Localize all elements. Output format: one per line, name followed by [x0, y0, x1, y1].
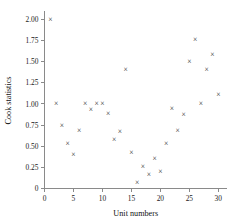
data-point-marker: ×: [83, 99, 87, 108]
x-tick-label: 5: [72, 194, 76, 203]
data-point-marker: ×: [164, 139, 168, 148]
data-point-marker: ×: [181, 110, 185, 119]
data-point-marker: ×: [210, 50, 214, 59]
data-point-marker: ×: [54, 99, 58, 108]
data-point-marker: ×: [94, 99, 98, 108]
data-point-marker: ×: [170, 104, 174, 113]
data-point-marker: ×: [152, 154, 156, 163]
y-tick-label: 0.75: [26, 121, 39, 130]
data-point-marker: ×: [147, 170, 151, 179]
y-tick-label: 0.25: [26, 163, 39, 172]
x-tick-label: 20: [157, 194, 165, 203]
data-point-marker: ×: [89, 105, 93, 114]
data-point-marker: ×: [216, 90, 220, 99]
data-point-marker: ×: [66, 139, 70, 148]
data-point-marker: ×: [123, 65, 127, 74]
x-tick-label: 10: [99, 194, 107, 203]
data-point-marker: ×: [106, 109, 110, 118]
data-point-marker: ×: [135, 178, 139, 187]
data-point-marker: ×: [77, 126, 81, 135]
data-point-marker: ×: [176, 126, 180, 135]
data-point-marker: ×: [129, 148, 133, 157]
y-tick-label: 1.50: [26, 57, 39, 66]
data-point-marker: ×: [71, 150, 75, 159]
y-tick-label: 0.50: [26, 142, 39, 151]
x-tick-label: 15: [128, 194, 136, 203]
data-point-marker: ×: [158, 167, 162, 176]
y-tick-label: 1.25: [26, 78, 39, 87]
x-tick-label: 30: [215, 194, 223, 203]
data-point-marker: ×: [118, 127, 122, 136]
data-point-marker: ×: [141, 162, 145, 171]
data-point-marker: ×: [187, 57, 191, 66]
data-point-marker: ×: [100, 99, 104, 108]
plot-canvas: 00.250.500.751.001.251.501.752.000510152…: [0, 0, 230, 224]
y-axis-title: Cook statistics: [4, 77, 13, 125]
data-point-marker: ×: [60, 121, 64, 130]
data-point-marker: ×: [193, 35, 197, 44]
x-tick-label: 25: [186, 194, 194, 203]
y-tick-label: 2.00: [26, 15, 39, 24]
data-point-marker: ×: [205, 65, 209, 74]
y-tick-label: 1.00: [26, 100, 39, 109]
y-tick-label: 0: [35, 184, 39, 193]
x-axis-title: Unit numbers: [113, 209, 158, 218]
cook-statistics-scatter-chart: 00.250.500.751.001.251.501.752.000510152…: [0, 0, 230, 224]
y-tick-label: 1.75: [26, 36, 39, 45]
data-point-marker: ×: [199, 99, 203, 108]
data-point-marker: ×: [112, 135, 116, 144]
x-tick-label: 0: [43, 194, 47, 203]
data-point-marker: ×: [48, 15, 52, 24]
